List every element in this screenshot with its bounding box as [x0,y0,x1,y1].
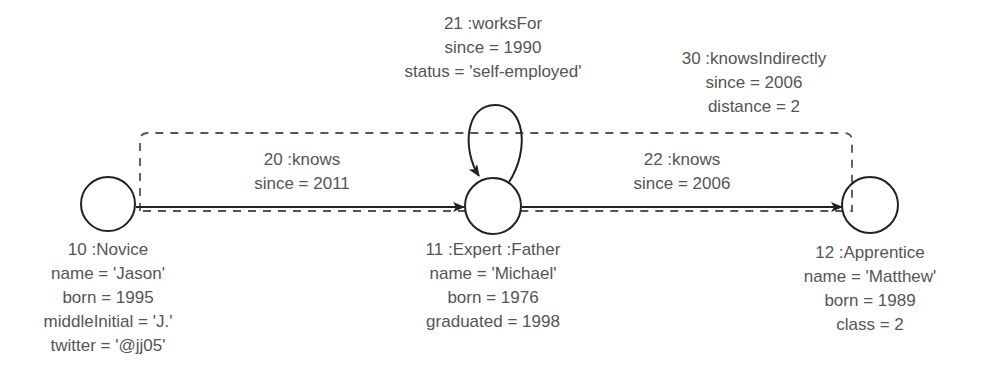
edge-30-prop-since: since = 2006 [682,71,827,95]
node-12-prop-name: name = 'Matthew' [804,265,937,289]
node-12-prop-class: class = 2 [804,313,937,337]
node-10-prop-born: born = 1995 [44,286,173,310]
edge-30-prop-distance: distance = 2 [682,95,827,119]
node-11-prop-born: born = 1976 [426,286,561,310]
edge-30-label: 30 :knowsIndirectly since = 2006 distanc… [682,47,827,119]
edge-20-prop-since: since = 2011 [254,172,350,196]
edge-30-title: 30 :knowsIndirectly [682,47,827,71]
node-10-prop-middle-initial: middleInitial = 'J.' [44,310,173,334]
node-11-prop-graduated: graduated = 1998 [426,310,561,334]
edge-22-title: 22 :knows [634,148,731,172]
edge-21-title: 21 :worksFor [404,12,581,36]
edge-22-label: 22 :knows since = 2006 [634,148,731,196]
node-10-prop-twitter: twitter = '@jj05' [44,334,173,358]
node-11-circle[interactable] [465,178,521,234]
node-10-title: 10 :Novice [44,238,173,262]
node-10-prop-name: name = 'Jason' [44,262,173,286]
edge-20-title: 20 :knows [254,148,350,172]
node-11-prop-name: name = 'Michael' [426,262,561,286]
node-11-title: 11 :Expert :Father [426,238,561,262]
edge-20-label: 20 :knows since = 2011 [254,148,350,196]
edge-21-prop-since: since = 1990 [404,36,581,60]
node-12-label: 12 :Apprentice name = 'Matthew' born = 1… [804,241,937,337]
edge-22-prop-since: since = 2006 [634,172,731,196]
node-11-label: 11 :Expert :Father name = 'Michael' born… [426,238,561,334]
node-12-title: 12 :Apprentice [804,241,937,265]
edge-21-prop-status: status = 'self-employed' [404,60,581,84]
node-10-label: 10 :Novice name = 'Jason' born = 1995 mi… [44,238,173,358]
edge-30-knows-indirectly-path[interactable] [140,133,852,211]
edge-21-works-for-loop[interactable] [469,105,522,182]
edge-21-label: 21 :worksFor since = 1990 status = 'self… [404,12,581,84]
node-12-prop-born: born = 1989 [804,289,937,313]
node-12-circle[interactable] [842,177,898,233]
node-10-circle[interactable] [81,177,135,231]
